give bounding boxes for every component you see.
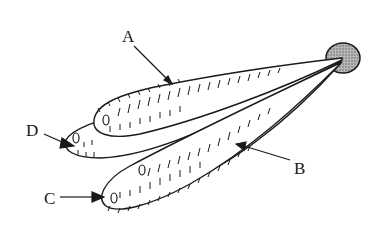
- label-d: D: [26, 122, 38, 139]
- leader-b: [244, 146, 290, 160]
- diagram-canvas: A B C D: [0, 0, 390, 242]
- label-b: B: [294, 160, 305, 177]
- label-a: A: [122, 28, 134, 45]
- leader-d: [44, 134, 62, 142]
- diagram-illustration: [0, 0, 390, 242]
- label-c: C: [44, 190, 55, 207]
